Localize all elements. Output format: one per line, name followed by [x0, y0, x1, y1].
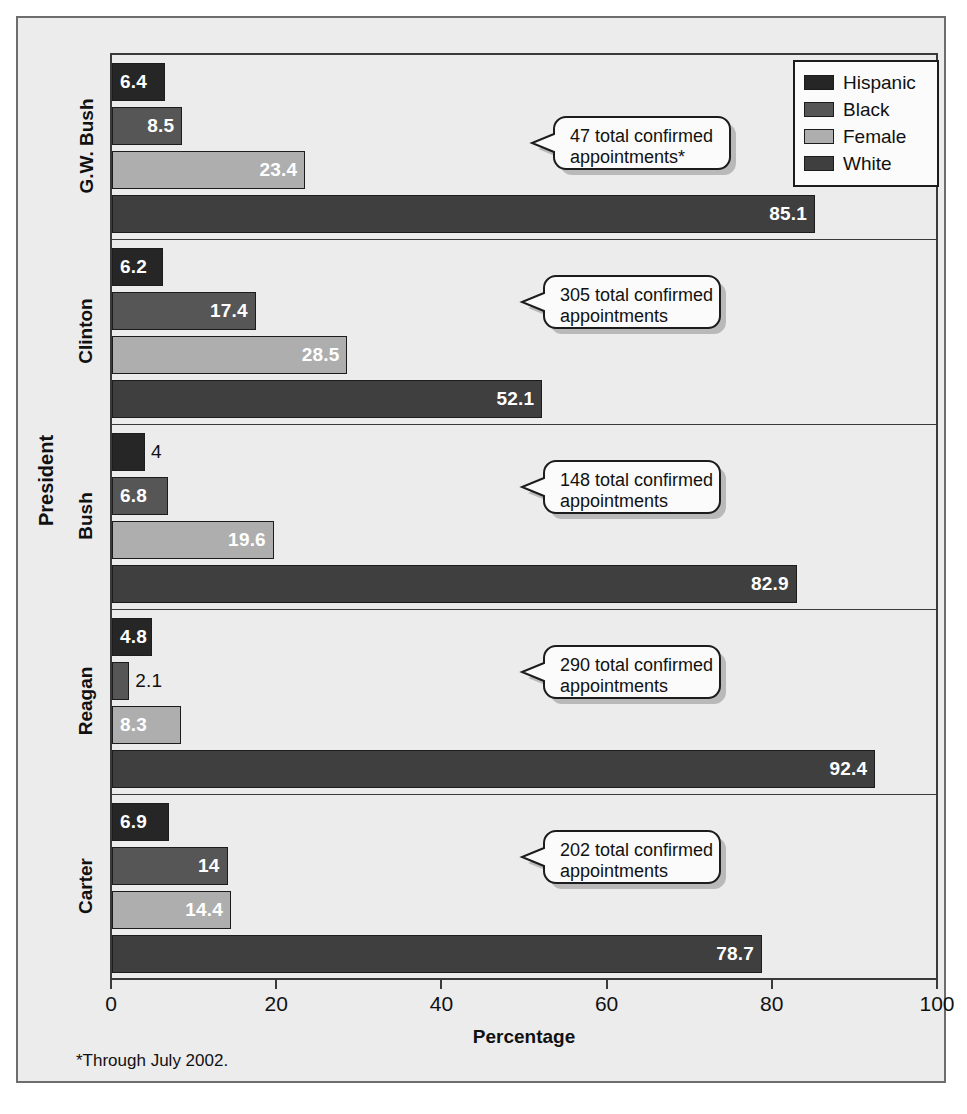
group-separator — [112, 794, 936, 795]
x-axis-tick — [606, 980, 608, 989]
x-axis-tick-label: 100 — [919, 992, 954, 1016]
x-axis-tick-label: 80 — [760, 992, 783, 1016]
y-axis-title: President — [32, 18, 62, 943]
x-axis-tick — [275, 980, 277, 989]
legend: HispanicBlackFemaleWhite — [793, 60, 939, 187]
category-label-text: Clinton — [75, 298, 97, 363]
legend-item-label: White — [843, 153, 892, 175]
callout-text: 47 total confirmed appointments* — [570, 126, 730, 168]
bar-hispanic: 4.8 — [112, 618, 152, 656]
bar-white: 52.1 — [112, 380, 542, 418]
group-separator — [112, 424, 936, 425]
legend-item-label: Female — [843, 126, 906, 148]
x-axis-line — [110, 978, 938, 980]
bar-black: 2.1 — [112, 662, 129, 700]
footnote: *Through July 2002. — [76, 1051, 228, 1071]
callout-annotation: 305 total confirmed appointments — [522, 276, 720, 334]
category-label-text: Bush — [75, 492, 97, 540]
bar-hispanic: 6.4 — [112, 63, 165, 101]
legend-swatch-icon — [804, 129, 834, 144]
bar-female: 14.4 — [112, 891, 231, 929]
legend-swatch-icon — [804, 102, 834, 117]
legend-item-hispanic: Hispanic — [804, 69, 928, 96]
x-axis-title: Percentage — [110, 1026, 938, 1048]
category-label-bush: Bush — [66, 423, 106, 608]
bar-value-label: 14.4 — [185, 899, 223, 921]
bar-value-label: 85.1 — [769, 203, 807, 225]
legend-item-label: Hispanic — [843, 72, 916, 94]
bar-value-label: 52.1 — [497, 388, 535, 410]
bar-value-label: 6.9 — [120, 811, 147, 833]
y-axis-title-text: President — [36, 435, 59, 526]
bar-value-label: 4.8 — [120, 626, 147, 648]
callout-text: 202 total confirmed appointments — [560, 840, 720, 882]
x-axis-tick — [936, 980, 938, 989]
bar-value-label: 4 — [151, 441, 162, 463]
bar-value-label: 78.7 — [716, 943, 754, 965]
x-axis-tick — [440, 980, 442, 989]
bar-value-label: 17.4 — [210, 300, 248, 322]
legend-swatch-icon — [804, 156, 834, 171]
bar-female: 8.3 — [112, 706, 181, 744]
bar-value-label: 92.4 — [829, 758, 867, 780]
category-label-text: Carter — [75, 858, 97, 914]
category-label-g-w-bush: G.W. Bush — [66, 53, 106, 238]
x-axis-tick-label: 40 — [430, 992, 453, 1016]
legend-swatch-icon — [804, 75, 834, 90]
legend-item-black: Black — [804, 96, 928, 123]
group-separator — [112, 609, 936, 610]
plot-area: 6.48.523.485.147 total confirmed appoint… — [110, 53, 938, 978]
bar-hispanic: 6.9 — [112, 803, 169, 841]
bar-value-label: 23.4 — [260, 159, 298, 181]
bar-value-label: 6.4 — [120, 71, 147, 93]
callout-annotation: 202 total confirmed appointments — [522, 831, 720, 889]
x-axis-tick — [771, 980, 773, 989]
callout-text: 305 total confirmed appointments — [560, 285, 720, 327]
bar-value-label: 82.9 — [751, 573, 789, 595]
bar-black: 17.4 — [112, 292, 256, 330]
bar-female: 23.4 — [112, 151, 305, 189]
x-axis-tick-label: 60 — [595, 992, 618, 1016]
bar-value-label: 8.5 — [147, 115, 174, 137]
bar-white: 85.1 — [112, 195, 815, 233]
bar-value-label: 2.1 — [135, 670, 162, 692]
chart-screenshot: President 6.48.523.485.147 total confirm… — [0, 0, 967, 1114]
category-label-clinton: Clinton — [66, 238, 106, 423]
category-label-text: Reagan — [75, 666, 97, 735]
legend-item-female: Female — [804, 123, 928, 150]
bar-value-label: 28.5 — [302, 344, 340, 366]
bar-black: 14 — [112, 847, 228, 885]
category-label-carter: Carter — [66, 793, 106, 978]
bar-female: 19.6 — [112, 521, 274, 559]
callout-annotation: 47 total confirmed appointments* — [532, 117, 730, 175]
bar-female: 28.5 — [112, 336, 347, 374]
callout-annotation: 290 total confirmed appointments — [522, 646, 720, 704]
callout-annotation: 148 total confirmed appointments — [522, 461, 720, 519]
bar-value-label: 8.3 — [120, 714, 147, 736]
bar-white: 78.7 — [112, 935, 762, 973]
legend-item-white: White — [804, 150, 928, 177]
bar-value-label: 14 — [198, 855, 220, 877]
category-label-text: G.W. Bush — [75, 98, 97, 193]
group-separator — [112, 239, 936, 240]
bar-white: 92.4 — [112, 750, 875, 788]
bar-white: 82.9 — [112, 565, 797, 603]
x-axis-tick — [110, 980, 112, 989]
bar-black: 8.5 — [112, 107, 182, 145]
bar-value-label: 19.6 — [228, 529, 266, 551]
bar-black: 6.8 — [112, 477, 168, 515]
x-axis-tick-label: 0 — [105, 992, 117, 1016]
bar-value-label: 6.2 — [120, 256, 147, 278]
bar-hispanic: 6.2 — [112, 248, 163, 286]
callout-text: 148 total confirmed appointments — [560, 470, 720, 512]
x-axis-tick-label: 20 — [265, 992, 288, 1016]
legend-item-label: Black — [843, 99, 889, 121]
category-label-reagan: Reagan — [66, 608, 106, 793]
callout-text: 290 total confirmed appointments — [560, 655, 720, 697]
bar-value-label: 6.8 — [120, 485, 147, 507]
bar-hispanic: 4 — [112, 433, 145, 471]
figure-frame: President 6.48.523.485.147 total confirm… — [16, 16, 946, 1083]
